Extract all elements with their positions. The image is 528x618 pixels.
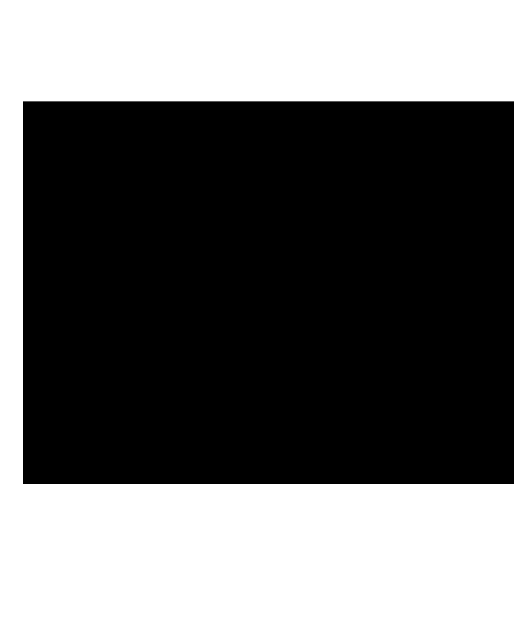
page <box>0 0 528 618</box>
black-media-frame <box>23 101 514 484</box>
